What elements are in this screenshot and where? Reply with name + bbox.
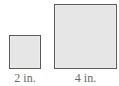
large-square-label: 4 in. bbox=[54, 72, 117, 84]
large-square bbox=[54, 4, 117, 69]
small-square bbox=[9, 35, 41, 69]
small-square-label: 2 in. bbox=[9, 72, 41, 84]
